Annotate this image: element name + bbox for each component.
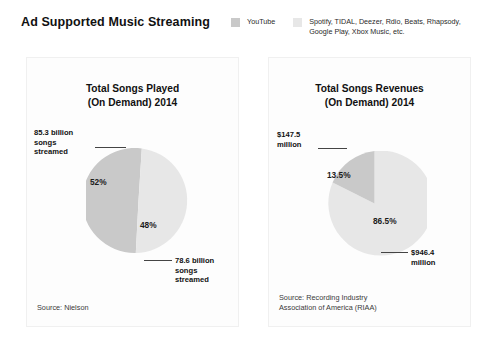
callout-others: $946.4 million [411,248,435,267]
pie-percent-youtube: 13.5% [327,170,351,180]
legend-item-youtube: YouTube [231,17,275,27]
leader-line [95,147,126,148]
pie-percent-others: 48% [140,220,157,230]
source-note: Source: Recording Industry Association o… [279,293,377,312]
legend: YouTube Spotify, TIDAL, Deezer, Rdio, Be… [231,17,461,36]
square-swatch-icon [293,18,302,27]
legend-item-label: YouTube [247,17,275,27]
callout-youtube: 85.3 billion songs streamed [34,128,73,157]
callout-youtube: $147.5 million [277,130,301,149]
chart-panel-songs-played: Total Songs Played (On Demand) 2014 52% … [26,57,239,327]
pie-svg [86,148,191,253]
square-swatch-icon [231,18,240,27]
page-title: Ad Supported Music Streaming [21,15,210,29]
chart-title: Total Songs Revenues (On Demand) 2014 [269,82,470,109]
pie-svg [322,151,427,256]
legend-item-label: Spotify, TIDAL, Deezer, Rdio, Beats, Rha… [309,17,460,36]
source-note: Source: Nielson [37,303,89,313]
pie-chart-songs-revenues [322,151,427,256]
pie-chart-songs-played [86,148,191,253]
leader-line [144,260,172,261]
callout-others: 78.6 billion songs streamed [175,256,214,285]
pie-percent-youtube: 52% [90,177,107,187]
pie-slice-others [136,148,187,253]
leader-line [318,148,347,149]
pie-slice-youtube [86,148,142,253]
chart-title: Total Songs Played (On Demand) 2014 [27,82,238,109]
chart-panel-songs-revenues: Total Songs Revenues (On Demand) 2014 13… [268,57,471,327]
leader-line [381,252,408,253]
legend-item-others: Spotify, TIDAL, Deezer, Rdio, Beats, Rha… [293,17,460,36]
pie-percent-others: 86.5% [373,216,397,226]
